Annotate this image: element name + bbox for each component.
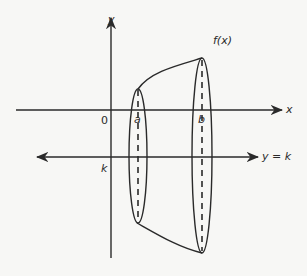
b-label: b bbox=[198, 114, 205, 125]
origin-label: 0 bbox=[101, 115, 108, 126]
function-curve-top bbox=[138, 58, 202, 89]
x-axis-label: x bbox=[286, 104, 293, 115]
rotation-axis-label: y = k bbox=[262, 151, 291, 162]
y-axis-label: y bbox=[108, 14, 115, 25]
a-label: a bbox=[134, 114, 141, 125]
function-curve-bottom bbox=[137, 223, 202, 253]
k-label: k bbox=[101, 163, 107, 174]
solid-of-revolution-diagram bbox=[0, 0, 307, 276]
function-label: f(x) bbox=[213, 35, 232, 46]
